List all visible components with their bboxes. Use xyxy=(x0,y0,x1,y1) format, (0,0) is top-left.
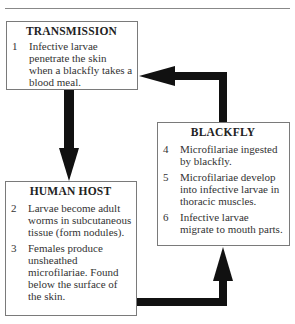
blackfly-box: BLACKFLY 4 Microfilariae ingested by bla… xyxy=(157,122,290,246)
arrow-left-icon xyxy=(139,66,227,122)
step-number: 5 xyxy=(161,171,180,207)
human-host-box: HUMAN HOST 2 Larvae become adult worms i… xyxy=(5,181,137,316)
step-item: 6 Infective larvae migrate to mouth part… xyxy=(161,211,285,235)
step-number: 6 xyxy=(161,211,180,235)
step-text: Infective larvae penetrate the skin when… xyxy=(29,40,133,88)
step-text: Larvae become adult worms in subcutaneou… xyxy=(28,202,132,238)
step-item: 2 Larvae become adult worms in subcutane… xyxy=(9,202,132,238)
human-host-title: HUMAN HOST xyxy=(9,185,132,198)
step-item: 1 Infective larvae penetrate the skin wh… xyxy=(10,40,133,88)
step-item: 3 Females produce unsheathed microfilari… xyxy=(9,242,132,302)
blackfly-title: BLACKFLY xyxy=(161,126,285,139)
step-item: 4 Microfilariae ingested by blackfly. xyxy=(161,143,285,167)
step-text: Females produce unsheathed microfilariae… xyxy=(28,242,132,302)
step-text: Microfilariae develop into infective lar… xyxy=(180,171,285,207)
step-number: 4 xyxy=(161,143,180,167)
step-item: 5 Microfilariae develop into infective l… xyxy=(161,171,285,207)
transmission-box: TRANSMISSION 1 Infective larvae penetrat… xyxy=(6,21,138,90)
transmission-title: TRANSMISSION xyxy=(10,25,133,38)
step-text: Microfilariae ingested by blackfly. xyxy=(180,143,285,167)
step-number: 2 xyxy=(9,202,28,238)
step-number: 1 xyxy=(10,40,29,88)
arrow-up-icon xyxy=(137,247,233,306)
step-number: 3 xyxy=(9,242,28,302)
step-text: Infective larvae migrate to mouth parts. xyxy=(180,211,285,235)
arrow-down-icon xyxy=(59,90,79,181)
